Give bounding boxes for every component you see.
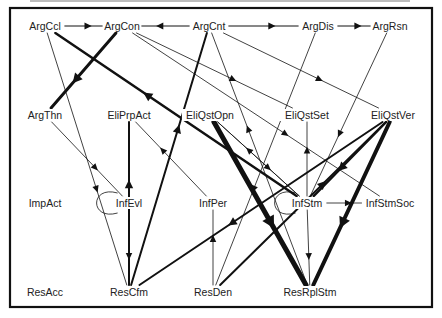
node-ArgCnt: ArgCnt [193, 20, 226, 32]
node-EliQstOpn: EliQstOpn [186, 109, 234, 121]
node-ArgCcl: ArgCcl [29, 20, 61, 32]
cut-off-caption [30, 0, 410, 2]
node-ImpAct: ImpAct [29, 197, 62, 209]
node-EliPrpAct: EliPrpAct [107, 109, 150, 121]
background [0, 0, 442, 318]
node-ResRplStm: ResRplStm [283, 286, 336, 298]
node-EliQstVer: EliQstVer [371, 109, 415, 121]
node-ResDen: ResDen [194, 286, 232, 298]
node-InfPer: InfPer [199, 197, 228, 209]
node-ArgCon: ArgCon [104, 20, 140, 32]
node-ArgThn: ArgThn [28, 109, 63, 121]
node-InfStmSoc: InfStmSoc [366, 197, 414, 209]
node-ArgDis: ArgDis [302, 20, 334, 32]
node-InfEvl: InfEvl [116, 197, 142, 209]
transition-diagram: ArgCclArgConArgCntArgDisArgRsnArgThnEliP… [0, 0, 442, 318]
node-InfStm: InfStm [292, 197, 323, 209]
node-EliQstSet: EliQstSet [285, 109, 329, 121]
node-ResCfm: ResCfm [110, 286, 148, 298]
node-ArgRsn: ArgRsn [372, 20, 407, 32]
node-ResAcc: ResAcc [27, 286, 63, 298]
